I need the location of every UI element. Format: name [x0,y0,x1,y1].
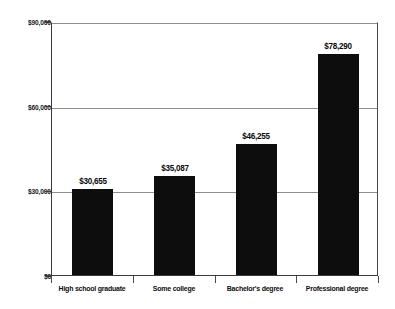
bar-group-bachelors-degree: $46,255 [236,23,277,275]
bar-group-high-school-graduate: $30,655 [72,23,113,275]
bar-value-label-professional-degree: $78,290 [324,41,351,51]
bar-high-school-graduate [72,189,113,276]
bar-professional-degree [318,54,359,275]
bar-some-college [154,176,195,275]
bar-group-professional-degree: $78,290 [318,23,359,275]
bar-value-label-some-college: $35,087 [161,163,188,173]
bar-group-some-college: $35,087 [154,23,195,275]
x-axis-tick-mark-3 [296,276,297,283]
bar-bachelors-degree [236,144,277,275]
bar-chart: $90,000 $60,000 $30,000 $0 $30,655 $35,0… [0,0,395,309]
x-axis-label-professional-degree: Professional degree [282,284,392,293]
x-axis-tick-mark-4 [378,276,379,283]
x-axis-tick-mark-2 [215,276,216,283]
bar-value-label-high-school-graduate: $30,655 [79,176,106,186]
bar-value-label-bachelors-degree: $46,255 [243,131,270,141]
x-axis-tick-mark-1 [133,276,134,283]
x-axis-tick-mark-0 [51,276,52,283]
plot-area: $30,655 $35,087 $46,255 $78,290 [51,22,378,276]
